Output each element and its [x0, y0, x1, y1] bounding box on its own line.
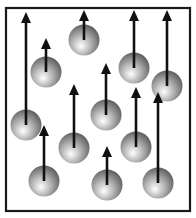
particle-box-diagram: [0, 0, 196, 218]
velocity-arrow-icon: [21, 12, 31, 125]
diagram-canvas: [0, 0, 196, 218]
